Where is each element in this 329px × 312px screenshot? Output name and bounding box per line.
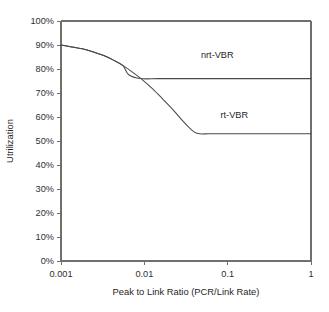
series-line-nrt-vbr: [61, 45, 311, 79]
x-axis-tick-labels: 0.0010.010.11: [50, 269, 314, 279]
x-tick-label: 1: [308, 269, 313, 279]
chart-container: 0%10%20%30%40%50%60%70%80%90%100% 0.0010…: [0, 0, 329, 312]
x-tick-label: 0.1: [221, 269, 234, 279]
series-lines: [61, 45, 311, 134]
y-tick-label: 0%: [41, 256, 54, 266]
x-tick-label: 0.001: [50, 269, 73, 279]
y-tick-label: 60%: [36, 112, 54, 122]
y-tick-label: 80%: [36, 64, 54, 74]
y-axis-title: Utrilization: [4, 119, 15, 163]
y-tick-label: 20%: [36, 208, 54, 218]
y-tick-label: 90%: [36, 40, 54, 50]
y-tick-label: 10%: [36, 232, 54, 242]
y-axis-ticks: [57, 21, 61, 261]
y-tick-label: 40%: [36, 160, 54, 170]
series-annotations: nrt-VBRrt-VBR: [201, 50, 249, 120]
x-axis-title: Peak to Link Ratio (PCR/Link Rate): [113, 286, 260, 297]
y-tick-label: 100%: [31, 16, 55, 26]
x-tick-label: 0.01: [135, 269, 153, 279]
x-axis-ticks: [61, 261, 311, 265]
y-tick-label: 50%: [36, 136, 54, 146]
series-line-rt-vbr: [61, 45, 311, 134]
y-tick-label: 30%: [36, 184, 54, 194]
series-label-nrt-vbr: nrt-VBR: [201, 50, 234, 60]
y-axis-tick-labels: 0%10%20%30%40%50%60%70%80%90%100%: [31, 16, 55, 266]
series-label-rt-vbr: rt-VBR: [220, 110, 248, 120]
y-tick-label: 70%: [36, 88, 54, 98]
utilization-line-chart: 0%10%20%30%40%50%60%70%80%90%100% 0.0010…: [0, 0, 329, 312]
